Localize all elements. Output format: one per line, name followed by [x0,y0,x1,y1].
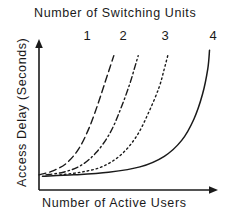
x-axis-arrowhead [209,186,218,194]
curves-group [39,50,210,176]
chart-figure: Number of Switching Units 1 2 3 4 Access… [0,0,226,217]
axes-group [35,39,218,194]
curve-series-4 [42,50,209,176]
curve-series-3 [60,56,168,175]
y-axis-arrowhead [35,39,43,48]
curve-series-2 [46,56,138,175]
curve-series-1 [39,56,114,175]
chart-plot-area [0,0,226,217]
